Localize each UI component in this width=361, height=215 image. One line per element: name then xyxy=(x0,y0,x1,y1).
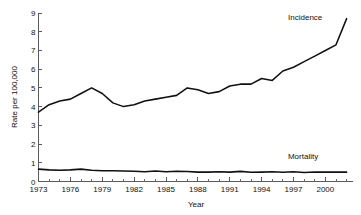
y-tick-label: 2 xyxy=(31,140,36,149)
y-tick-label: 4 xyxy=(31,103,36,112)
incidence-series-label: Incidence xyxy=(288,13,323,22)
x-tick-label: 1979 xyxy=(93,185,111,194)
x-tick-label: 2000 xyxy=(316,185,334,194)
x-tick-label: 1988 xyxy=(189,185,207,194)
chart-container: 0123456789 19731976197919821985198819911… xyxy=(0,0,361,215)
rate-trend-line-chart: 0123456789 19731976197919821985198819911… xyxy=(0,0,361,215)
x-tick-label: 1982 xyxy=(125,185,143,194)
y-tick-label: 5 xyxy=(31,84,36,93)
y-tick-label: 9 xyxy=(31,9,36,18)
x-axis-title: Year xyxy=(188,200,205,209)
incidence-line xyxy=(39,19,347,113)
y-tick-label: 6 xyxy=(31,65,36,74)
x-tick-label: 1994 xyxy=(253,185,271,194)
x-tick-label: 1973 xyxy=(30,185,48,194)
y-tick-label: 7 xyxy=(31,46,36,55)
mortality-line xyxy=(39,169,347,172)
mortality-series-label: Mortality xyxy=(288,152,318,161)
x-tick-label: 1976 xyxy=(61,185,79,194)
y-tick-label: 3 xyxy=(31,121,36,130)
y-tick-label: 8 xyxy=(31,28,36,37)
x-axis-ticks: 1973197619791982198519881991199419972000 xyxy=(30,177,335,194)
x-tick-label: 1997 xyxy=(285,185,303,194)
y-tick-label: 1 xyxy=(31,159,36,168)
x-tick-label: 1991 xyxy=(221,185,239,194)
y-axis-title: Rate per 100,000 xyxy=(10,66,19,128)
x-tick-label: 1985 xyxy=(157,185,175,194)
y-axis-ticks: 0123456789 xyxy=(31,9,42,187)
